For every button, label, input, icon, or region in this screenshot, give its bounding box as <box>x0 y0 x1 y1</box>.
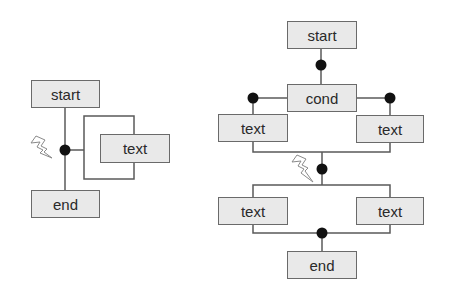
start-cond-dot <box>316 60 327 71</box>
right-start-node: start <box>287 21 357 49</box>
left-end-node: end <box>31 190 100 218</box>
parallel-right-text-node: text <box>356 197 424 225</box>
parallel-split-line <box>253 185 390 197</box>
left-start-node: start <box>31 80 100 108</box>
parallel-left-text-node: text <box>218 197 288 225</box>
condition-node: cond <box>287 84 357 112</box>
branch-left-text-node: text <box>218 114 288 142</box>
left-loop-text-node: text <box>100 134 170 163</box>
branch-right-text-node: text <box>356 115 424 143</box>
merge-dot <box>317 164 328 175</box>
left-junction-dot <box>60 145 71 156</box>
cond-right-dot <box>385 93 396 104</box>
right-end-node: end <box>287 251 357 279</box>
right-lightning-icon <box>292 155 313 182</box>
left-lightning-icon <box>31 136 52 158</box>
branch-merge-line <box>253 142 390 152</box>
cond-left-dot <box>248 93 259 104</box>
join-dot <box>317 228 328 239</box>
connector-layer <box>0 0 450 303</box>
